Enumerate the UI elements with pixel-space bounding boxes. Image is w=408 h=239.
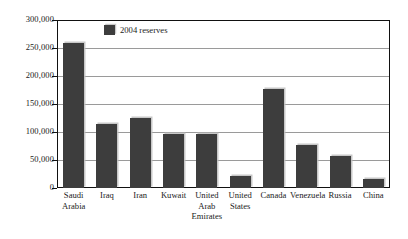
x-axis-tick-label-line: Arabia <box>57 201 90 212</box>
x-axis-tick-label: Kuwait <box>157 190 190 201</box>
x-axis-tick-label-line: Iraq <box>90 190 123 201</box>
bar-slot <box>63 20 84 188</box>
bar-slot <box>96 20 117 188</box>
bar <box>63 43 84 188</box>
bar-slot <box>130 20 151 188</box>
x-axis-tick-label: China <box>357 190 390 201</box>
bar <box>130 118 151 188</box>
bar-slot <box>263 20 284 188</box>
x-axis-tick-label: Canada <box>257 190 290 201</box>
legend-label: 2004 reserves <box>120 25 168 35</box>
x-axis-tick-label: Russia <box>323 190 356 201</box>
bar <box>296 145 317 188</box>
y-axis-tick-label: 50,000 <box>30 155 54 164</box>
legend-swatch-icon <box>104 25 115 35</box>
x-axis-tick-label: Iraq <box>90 190 123 201</box>
y-axis-tick-label: 100,000 <box>26 127 54 136</box>
bar-slot <box>230 20 251 188</box>
y-axis-tick-label: 250,000 <box>26 43 54 52</box>
y-axis-tick-label: 300,000 <box>26 15 54 24</box>
bar <box>96 124 117 188</box>
x-axis-tick-label-line: Iran <box>124 190 157 201</box>
x-axis-tick-label: SaudiArabia <box>57 190 90 211</box>
bar <box>363 179 384 188</box>
bar <box>330 156 351 188</box>
bar-slot <box>330 20 351 188</box>
x-axis-tick-label-line: Kuwait <box>157 190 190 201</box>
x-axis-tick-label-line: States <box>224 201 257 212</box>
x-axis-tick-label-line: China <box>357 190 390 201</box>
bar <box>196 134 217 188</box>
x-axis-tick-label-line: Emirates <box>190 211 223 222</box>
bar <box>163 134 184 188</box>
bar-slot <box>196 20 217 188</box>
x-axis-tick-label-line: Venezuela <box>290 190 323 201</box>
x-axis-labels: SaudiArabiaIraqIranKuwaitUnitedArabEmira… <box>57 190 390 238</box>
bar-slot <box>363 20 384 188</box>
y-axis-tick-label: 200,000 <box>26 71 54 80</box>
x-axis-tick-label-line: Russia <box>323 190 356 201</box>
x-axis-tick-label: Iran <box>124 190 157 201</box>
bar <box>230 176 251 188</box>
y-axis-tick-label: 150,000 <box>26 99 54 108</box>
x-axis-tick-label: Venezuela <box>290 190 323 201</box>
x-axis-tick-label-line: Canada <box>257 190 290 201</box>
bars-group <box>57 20 390 188</box>
bar-chart-figure: 050,000100,000150,000200,000250,000300,0… <box>0 0 408 239</box>
x-axis-tick-label: UnitedArabEmirates <box>190 190 223 222</box>
bar <box>263 89 284 188</box>
x-axis-tick-label: UnitedStates <box>224 190 257 211</box>
bar-slot <box>296 20 317 188</box>
x-axis-tick-label-line: Saudi <box>57 190 90 201</box>
x-axis-tick-label-line: United <box>224 190 257 201</box>
x-axis-tick-label-line: Arab <box>190 201 223 212</box>
legend: 2004 reserves <box>104 25 168 35</box>
x-axis-tick-label-line: United <box>190 190 223 201</box>
bar-slot <box>163 20 184 188</box>
